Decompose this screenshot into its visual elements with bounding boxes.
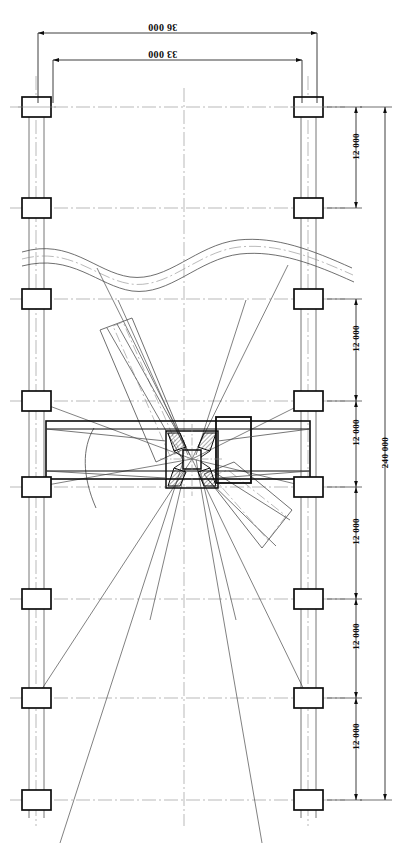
column bbox=[294, 589, 323, 609]
column bbox=[22, 589, 51, 609]
dimension-label-12000-1: 12 000 bbox=[352, 117, 361, 177]
column bbox=[22, 198, 51, 218]
dimension-label-12000-2: 12 000 bbox=[352, 309, 361, 369]
column-grid-lines bbox=[29, 97, 316, 818]
machinery-house bbox=[216, 417, 251, 483]
dimension-label-36000: 36 000 bbox=[148, 22, 177, 32]
column bbox=[22, 688, 51, 708]
column bbox=[22, 289, 51, 309]
column bbox=[294, 198, 323, 218]
radial-sight-lines bbox=[36, 265, 308, 843]
curved-roadway bbox=[22, 239, 354, 291]
column bbox=[294, 477, 323, 497]
dimension-label-12000-3: 12 000 bbox=[352, 403, 361, 463]
column bbox=[22, 477, 51, 497]
drawing-sheet: 36 000 33 000 12 000 12 000 12 000 12 00… bbox=[0, 0, 413, 843]
column bbox=[22, 391, 51, 411]
column bbox=[294, 688, 323, 708]
swing-radius-arc bbox=[85, 428, 96, 508]
dimension-label-12000-5: 12 000 bbox=[352, 607, 361, 667]
column bbox=[22, 790, 51, 810]
dimension-label-33000: 33 000 bbox=[148, 49, 177, 59]
column bbox=[294, 391, 323, 411]
dimension-label-12000-6: 12 000 bbox=[352, 707, 361, 767]
column-right-row bbox=[294, 97, 323, 810]
horizontal-dimension-lines bbox=[38, 33, 317, 103]
column bbox=[294, 790, 323, 810]
column bbox=[294, 289, 323, 309]
hub-bracket-nw bbox=[168, 433, 186, 451]
dimension-label-240000: 240 000 bbox=[381, 423, 390, 483]
boom-lower-right bbox=[204, 462, 292, 548]
dimension-label-12000-4: 12 000 bbox=[352, 502, 361, 562]
central-rotating-hub bbox=[160, 424, 224, 496]
